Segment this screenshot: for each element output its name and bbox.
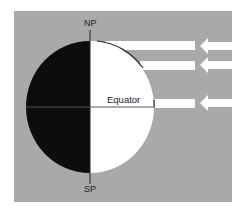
south-pole-label: SP xyxy=(84,184,96,194)
sun-ray-2 xyxy=(140,61,195,70)
arrow-icon-1 xyxy=(200,38,232,54)
equator-label: Equator xyxy=(107,94,140,105)
arrow-icon-3 xyxy=(200,95,232,111)
earth-illumination-diagram xyxy=(0,0,243,215)
arrow-icon-2 xyxy=(200,57,232,73)
sun-ray-3 xyxy=(155,99,195,108)
north-pole-label: NP xyxy=(84,18,97,28)
